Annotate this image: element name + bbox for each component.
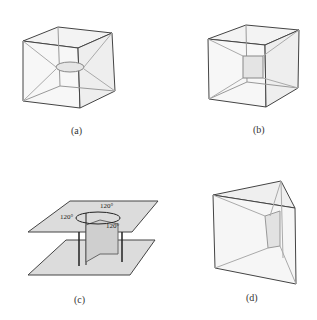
figure-canvas: 120° 120° 120° xyxy=(0,0,317,320)
caption-a: (a) xyxy=(71,125,82,136)
caption-d: (d) xyxy=(246,292,258,303)
panel-d-prism xyxy=(213,181,296,284)
panel-a-cube xyxy=(23,27,115,108)
angle-label-top: 120° xyxy=(100,202,114,210)
caption-c: (c) xyxy=(74,294,85,305)
panel-b-cube xyxy=(208,25,299,107)
caption-b: (b) xyxy=(253,124,265,135)
angle-label-right: 120° xyxy=(106,222,120,230)
panel-c-plates: 120° 120° 120° xyxy=(28,201,158,275)
angle-label-left: 120° xyxy=(60,213,74,221)
